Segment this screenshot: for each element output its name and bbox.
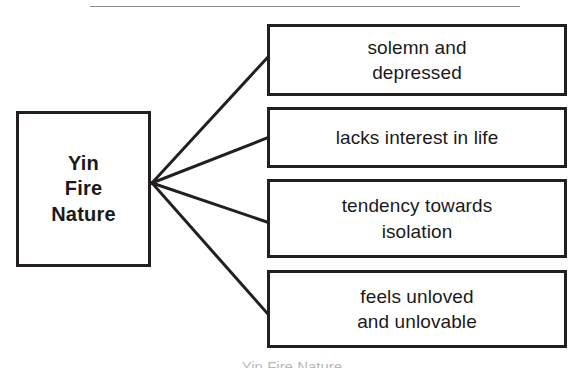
leaf-node-lacks-interest-in-life: lacks interest in life bbox=[267, 107, 567, 168]
leaf-node-1-label: solemn anddepressed bbox=[367, 35, 466, 85]
root-node-line-1: Yin bbox=[68, 152, 99, 174]
leaf-node-2-line-1: lacks interest in life bbox=[336, 127, 499, 148]
bottom-caption-text: Yin Fire Nature bbox=[0, 359, 584, 368]
root-node-line-3: Nature bbox=[51, 203, 116, 225]
leaf-node-4-line-2: and unlovable bbox=[357, 311, 477, 332]
leaf-node-3-line-1: tendency towards bbox=[342, 195, 493, 216]
bottom-clipped-caption: Yin Fire Nature bbox=[0, 359, 584, 368]
leaf-node-1-line-2: depressed bbox=[372, 62, 462, 83]
leaf-node-3-label: tendency towardsisolation bbox=[342, 193, 493, 243]
root-node-yin-fire-nature: YinFireNature bbox=[16, 111, 151, 267]
root-node-line-2: Fire bbox=[65, 177, 102, 199]
connector-line-1 bbox=[152, 58, 267, 183]
leaf-node-solemn-and-depressed: solemn anddepressed bbox=[267, 24, 567, 96]
leaf-node-feels-unloved-and-unlovable: feels unlovedand unlovable bbox=[267, 270, 567, 348]
leaf-node-tendency-towards-isolation: tendency towardsisolation bbox=[267, 179, 567, 258]
leaf-node-4-label: feels unlovedand unlovable bbox=[357, 284, 477, 334]
leaf-node-3-line-2: isolation bbox=[382, 221, 453, 242]
leaf-node-2-label: lacks interest in life bbox=[336, 125, 499, 150]
leaf-node-1-line-1: solemn and bbox=[367, 37, 466, 58]
diagram-canvas: YinFireNature solemn anddepressed lacks … bbox=[0, 0, 584, 368]
root-node-label: YinFireNature bbox=[51, 151, 116, 228]
leaf-node-4-line-1: feels unloved bbox=[360, 286, 473, 307]
connector-line-2 bbox=[152, 138, 267, 183]
